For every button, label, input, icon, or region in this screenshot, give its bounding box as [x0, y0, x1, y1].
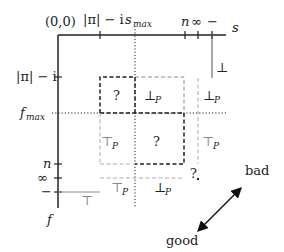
- svg-text:P: P: [121, 187, 129, 197]
- good-label: good: [166, 233, 198, 248]
- y-tick-label-inf: ∞: [37, 170, 48, 185]
- region-bot-p-top-mid: ⊥ P: [144, 88, 162, 105]
- y-axis-label: f: [46, 212, 54, 227]
- region-q-corner: ?: [190, 166, 197, 181]
- region-bot-p-bottom: ⊥ P: [154, 180, 172, 197]
- x-tick-label-minus: −: [207, 14, 218, 29]
- corner-dot: [197, 178, 199, 180]
- region-q-center: ?: [153, 134, 160, 149]
- x-tick-label-pi-minus-i: |π| − i: [83, 12, 124, 27]
- svg-text:max: max: [133, 19, 152, 29]
- region-top-p-mid-right: ⊤ P: [202, 134, 220, 151]
- y-tick-label-f-max: f max: [19, 105, 45, 122]
- svg-text:P: P: [213, 95, 221, 105]
- region-bot-p-top-right: ⊥ P: [203, 88, 221, 105]
- x-tick-label-s-max: s max: [125, 12, 152, 29]
- good-bad-arrow: [199, 189, 240, 230]
- bad-label: bad: [245, 163, 269, 178]
- region-q-top-left: ?: [113, 88, 120, 103]
- y-tick-label-pi-minus-i: |π| − i: [16, 69, 57, 84]
- y-tick-label-n: n: [43, 156, 51, 171]
- region-top-bottom-left: ⊤: [81, 193, 93, 208]
- svg-text:s: s: [125, 12, 132, 27]
- svg-text:P: P: [154, 95, 162, 105]
- x-axis-label: s: [232, 20, 239, 35]
- region-top-p-mid-left: ⊤ P: [101, 134, 119, 151]
- svg-text:max: max: [26, 112, 45, 122]
- diagram-canvas: ⊥ ? ⊥ P ⊥ P ⊤ P ? ⊤ P ⊤ P ⊥ P ? ⊤ (0,0) …: [0, 0, 284, 252]
- svg-text:P: P: [111, 141, 119, 151]
- svg-text:P: P: [212, 141, 220, 151]
- region-top-p-bottom: ⊤ P: [111, 180, 129, 197]
- origin-label: (0,0): [45, 14, 76, 29]
- x-tick-label-inf: ∞: [191, 14, 202, 29]
- x-tick-label-n: n: [181, 14, 189, 29]
- svg-text:P: P: [164, 187, 172, 197]
- region-bottom-top-right: ⊥: [216, 60, 228, 75]
- y-tick-label-minus: −: [41, 184, 52, 199]
